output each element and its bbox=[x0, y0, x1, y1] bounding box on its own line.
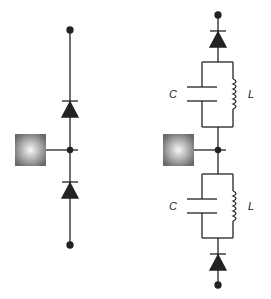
upper-capacitor bbox=[187, 87, 217, 101]
upper-capacitor-label: C bbox=[169, 88, 177, 100]
right-circuit bbox=[187, 12, 236, 288]
right-diode-lower bbox=[210, 254, 226, 270]
left-diode-lower bbox=[62, 182, 78, 198]
right-diode-upper bbox=[210, 31, 226, 47]
lower-inductor-label: L bbox=[248, 200, 254, 212]
upper-lc-tank bbox=[187, 62, 236, 127]
circuit-diagram: C L C L bbox=[0, 0, 271, 299]
left-terminal-bottom bbox=[67, 242, 73, 248]
left-diode-upper bbox=[62, 101, 78, 117]
lower-capacitor bbox=[187, 199, 217, 213]
lower-capacitor-label: C bbox=[169, 200, 177, 212]
right-junction bbox=[215, 147, 220, 152]
lower-inductor bbox=[233, 191, 236, 221]
left-terminal-top bbox=[67, 27, 73, 33]
upper-inductor-label: L bbox=[248, 88, 254, 100]
left-junction bbox=[67, 147, 72, 152]
lower-lc-tank bbox=[187, 174, 236, 238]
upper-inductor bbox=[233, 79, 236, 109]
right-source-block bbox=[163, 134, 194, 166]
right-terminal-bottom bbox=[215, 282, 221, 288]
left-source-block bbox=[15, 134, 46, 166]
left-circuit bbox=[46, 27, 78, 248]
